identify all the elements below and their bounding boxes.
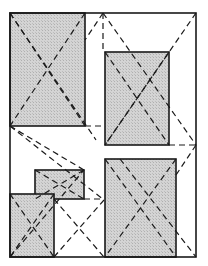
layout-diagram	[0, 0, 208, 266]
dashed-line	[85, 13, 103, 40]
dashed-line	[176, 145, 196, 175]
dashed-line	[10, 126, 84, 170]
